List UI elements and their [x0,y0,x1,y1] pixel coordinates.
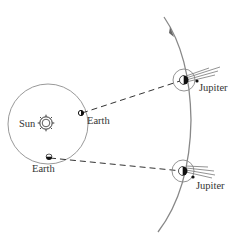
earth-1-label: Earth [87,115,110,126]
earth-2-icon [46,154,52,160]
jupiter-2-group [172,160,215,182]
sight-line-1 [82,80,183,113]
sun-icon [38,115,55,132]
jupiter-1-label: Jupiter [199,82,228,93]
light-rays-2 [186,166,215,178]
earth-1-icon [78,110,83,115]
jupiter-earth-diagram: Sun Earth Earth Jupiter [0,0,246,241]
sun-label: Sun [19,118,36,129]
moon-2-icon [191,175,194,178]
jupiter-2-label: Jupiter [196,180,225,191]
sight-line-2 [50,158,182,171]
earth-2-label: Earth [32,163,55,174]
light-rays-1 [186,67,220,82]
jupiter-orbit [158,17,191,232]
